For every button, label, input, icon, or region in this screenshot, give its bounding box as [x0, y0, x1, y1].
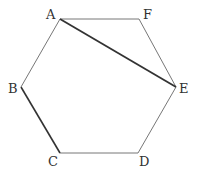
diagonal-a-e	[60, 19, 176, 87]
vertex-label-d: D	[139, 154, 149, 169]
vertex-labels: A F E D C B	[8, 7, 189, 169]
vertex-label-b: B	[8, 81, 18, 96]
vertex-label-a: A	[45, 7, 56, 22]
vertex-label-c: C	[48, 154, 58, 169]
hexagon-diagram: A F E D C B	[0, 0, 202, 175]
edge-e-d	[138, 87, 176, 153]
vertex-label-f: F	[143, 7, 152, 22]
hexagon-edges	[21, 19, 176, 153]
edge-c-b	[21, 87, 60, 153]
vertex-label-e: E	[179, 81, 189, 96]
edge-b-a	[21, 19, 60, 87]
